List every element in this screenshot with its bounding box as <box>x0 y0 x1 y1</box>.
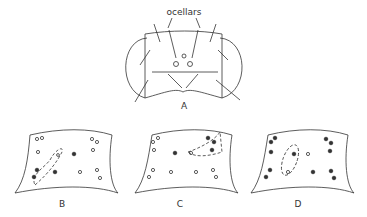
panel-c-frons <box>135 130 238 193</box>
panel-c-label: C <box>177 199 183 209</box>
panel-a-label: A <box>181 101 188 111</box>
ocellars-label: ocellars <box>167 7 202 17</box>
panel-a-head <box>126 18 242 102</box>
figure-canvas: ocellars A B C <box>0 0 367 217</box>
panel-b-label: B <box>59 199 65 209</box>
panel-d-label: D <box>295 199 302 209</box>
panel-d-frons <box>251 130 354 193</box>
panel-b-frons <box>15 130 118 193</box>
